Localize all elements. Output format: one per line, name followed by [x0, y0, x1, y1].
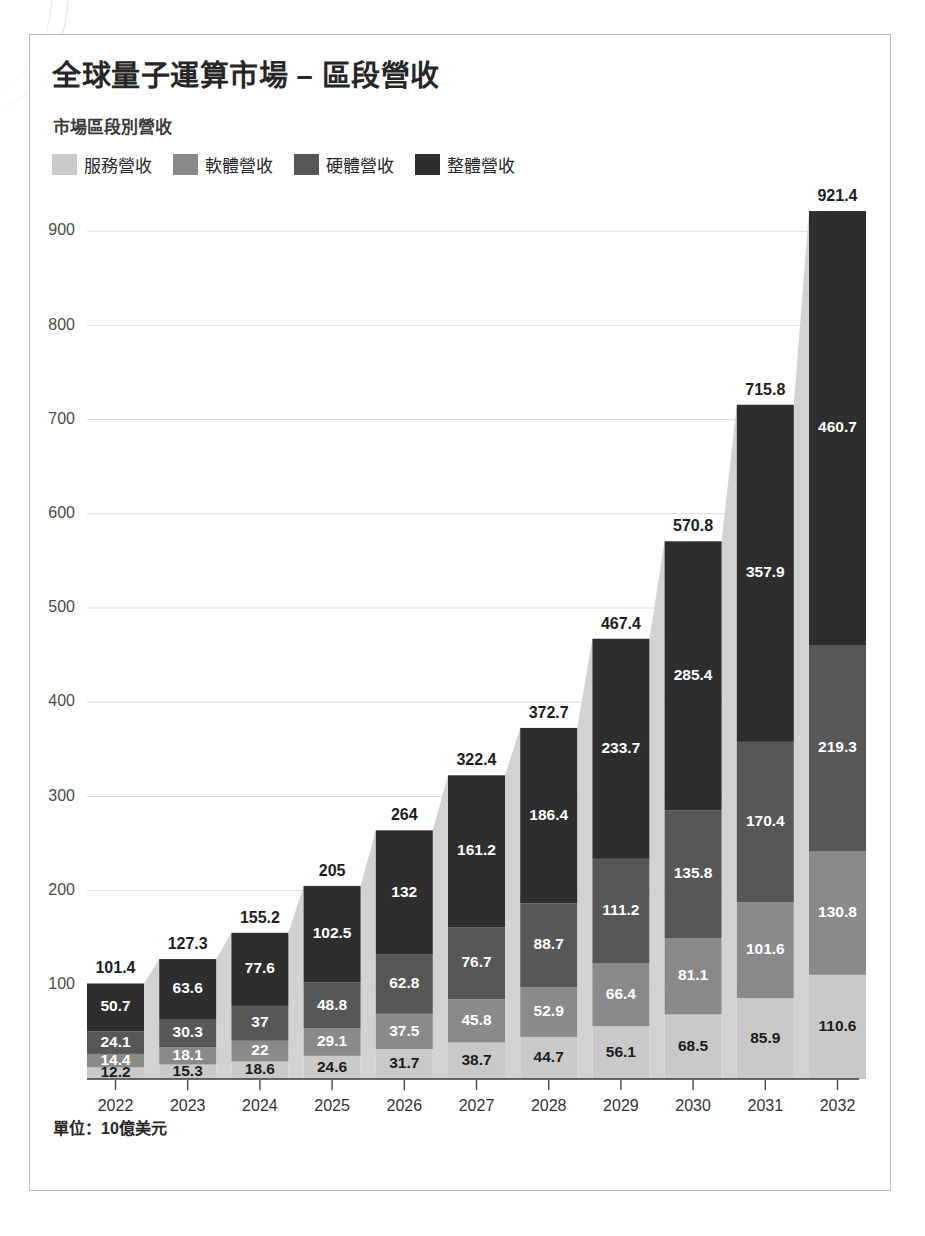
bar-total-label: 715.8 [745, 381, 785, 398]
bar-segment-value-label: 24.6 [317, 1058, 348, 1075]
x-axis-tick-label: 2023 [170, 1097, 206, 1114]
bar-total-label: 570.8 [673, 517, 713, 534]
y-axis-tick-label: 200 [48, 881, 75, 898]
bar-segment-value-label: 101.6 [746, 940, 785, 957]
bar-segment-value-label: 66.4 [606, 985, 637, 1002]
bar-total-label: 322.4 [456, 751, 496, 768]
y-axis-tick-label: 300 [48, 787, 75, 804]
bar-segment-value-label: 170.4 [746, 812, 785, 829]
x-axis-tick-label: 2029 [603, 1097, 639, 1114]
x-axis-tick-label: 2022 [98, 1097, 134, 1114]
bar-total-label: 205 [319, 862, 346, 879]
bar-segment-value-label: 37 [251, 1013, 268, 1030]
ribbon-segment [649, 541, 664, 1079]
bar-segment-value-label: 18.1 [173, 1046, 204, 1063]
bar-segment-value-label: 44.7 [534, 1048, 564, 1065]
ribbon-segment [433, 775, 448, 1079]
x-axis-tick-label: 2028 [531, 1097, 567, 1114]
bar-segment-value-label: 68.5 [678, 1037, 709, 1054]
bar-segment-value-label: 76.7 [461, 953, 491, 970]
y-axis-tick-label: 800 [48, 316, 75, 333]
x-axis-tick-label: 2025 [314, 1097, 350, 1114]
x-axis-tick-label: 2031 [748, 1097, 784, 1114]
bar-segment-value-label: 29.1 [317, 1032, 348, 1049]
bar-segment-value-label: 110.6 [819, 1017, 857, 1034]
bar-segment-value-label: 14.4 [100, 1051, 131, 1068]
ribbon-segment [144, 959, 159, 1079]
bar-segment-value-label: 56.1 [606, 1043, 637, 1060]
bar-segment-value-label: 62.8 [389, 974, 420, 991]
bar-segment-value-label: 63.6 [173, 979, 204, 996]
bar-segment-value-label: 102.5 [313, 924, 352, 941]
bar-segment-value-label: 31.7 [389, 1054, 419, 1071]
bar-segment-value-label: 30.3 [173, 1023, 204, 1040]
bar-segment-value-label: 37.5 [389, 1022, 420, 1039]
x-axis-tick-label: 2026 [387, 1097, 423, 1114]
bar-segment-value-label: 111.2 [602, 901, 639, 918]
bar-segment-value-label: 132 [391, 883, 417, 900]
bar-segment-value-label: 15.3 [173, 1062, 204, 1079]
ribbon-segment [794, 211, 809, 1079]
bar-segment-value-label: 130.8 [818, 903, 857, 920]
y-axis-tick-label: 700 [48, 410, 75, 427]
scanned-page: 全球量子運算市場 – 區段營收 市場區段別營收 服務營收軟體營收硬體營收整體營收… [0, 0, 925, 1236]
bar-segment-value-label: 77.6 [245, 959, 276, 976]
bar-total-label: 467.4 [601, 615, 641, 632]
bar-segment-value-label: 48.8 [317, 996, 348, 1013]
unit-footnote: 單位：10億美元 [53, 1115, 167, 1139]
bar-total-label: 127.3 [168, 935, 208, 952]
bar-segment-value-label: 52.9 [534, 1002, 565, 1019]
x-axis-tick-label: 2032 [820, 1097, 856, 1114]
bar-segment-value-label: 161.2 [457, 841, 496, 858]
bar-segment-value-label: 233.7 [602, 739, 641, 756]
stacked-bar-chart: 1002003004005006007008009002022202320242… [30, 35, 892, 1192]
x-axis-tick-label: 2027 [459, 1097, 495, 1114]
bar-total-label: 921.4 [817, 187, 857, 204]
ribbon-segment [288, 886, 303, 1079]
chart-card: 全球量子運算市場 – 區段營收 市場區段別營收 服務營收軟體營收硬體營收整體營收… [29, 34, 891, 1191]
y-axis-tick-label: 900 [48, 221, 75, 238]
bar-segment-value-label: 357.9 [746, 563, 785, 580]
ribbon-segment [505, 728, 520, 1079]
y-axis-tick-label: 600 [48, 504, 75, 521]
bar-segment-value-label: 460.7 [818, 418, 857, 435]
chart-plot-area: 1002003004005006007008009002022202320242… [30, 35, 892, 1192]
bar-segment-value-label: 18.6 [245, 1060, 276, 1077]
ribbon-segment [216, 933, 231, 1079]
bar-total-label: 372.7 [529, 704, 569, 721]
bar-segment-value-label: 22 [251, 1041, 268, 1058]
bar-total-label: 155.2 [240, 909, 280, 926]
ribbon-segment [722, 405, 737, 1079]
x-axis-tick-label: 2030 [675, 1097, 711, 1114]
bar-segment-value-label: 186.4 [529, 806, 568, 823]
bar-segment-value-label: 285.4 [674, 666, 713, 683]
bar-total-label: 264 [391, 806, 418, 823]
bar-segment-value-label: 88.7 [534, 935, 564, 952]
x-axis-tick-label: 2024 [242, 1097, 278, 1114]
bar-segment-value-label: 135.8 [674, 864, 713, 881]
bar-segment-value-label: 81.1 [678, 966, 709, 983]
bar-segment-value-label: 24.1 [100, 1033, 131, 1050]
y-axis-tick-label: 400 [48, 692, 75, 709]
bar-segment-value-label: 45.8 [461, 1011, 492, 1028]
ribbon-segment [361, 830, 376, 1079]
bar-segment-value-label: 38.7 [461, 1051, 491, 1068]
ribbon-segment [577, 639, 592, 1079]
bar-segment-value-label: 219.3 [818, 738, 857, 755]
bar-segment-value-label: 50.7 [100, 997, 130, 1014]
bar-total-label: 101.4 [95, 959, 135, 976]
bar-segment-value-label: 85.9 [750, 1029, 781, 1046]
y-axis-tick-label: 100 [48, 975, 75, 992]
y-axis-tick-label: 500 [48, 598, 75, 615]
